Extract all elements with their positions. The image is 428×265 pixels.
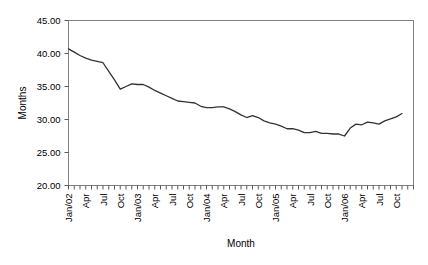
x-tick-label: Oct (391, 193, 402, 208)
x-tick-label: Apr (218, 194, 229, 209)
x-tick-label: Jan/06 (339, 194, 350, 223)
line-chart: 20.0025.0030.0035.0040.0045.00 Jan/02Apr… (0, 0, 428, 265)
x-tick-label: Jul (167, 194, 178, 206)
x-tick-label: Jul (374, 194, 385, 206)
y-tick-label: 45.00 (37, 15, 61, 26)
x-tick-label: Oct (184, 193, 195, 208)
x-tick-label: Apr (149, 194, 160, 209)
y-tick-label: 25.00 (37, 147, 61, 158)
x-tick-label: Oct (322, 193, 333, 208)
x-tick-label: Jan/03 (132, 194, 143, 223)
x-tick-label: Apr (287, 194, 298, 209)
chart-canvas: 20.0025.0030.0035.0040.0045.00 Jan/02Apr… (0, 0, 428, 265)
x-tick-label: Oct (115, 193, 126, 208)
x-tick-label: Jul (98, 194, 109, 206)
x-axis-title: Month (227, 238, 255, 249)
y-tick-label: 20.00 (37, 180, 61, 191)
y-tick-label: 35.00 (37, 81, 61, 92)
y-axis-title: Months (17, 87, 28, 120)
x-tick-label: Jul (236, 194, 247, 206)
x-axis-ticks (69, 186, 414, 190)
x-tick-label: Oct (253, 193, 264, 208)
x-tick-label: Jan/04 (201, 194, 212, 223)
chart-background (0, 0, 428, 265)
y-tick-label: 40.00 (37, 48, 61, 59)
y-tick-label: 30.00 (37, 114, 61, 125)
x-tick-label: Apr (80, 194, 91, 209)
x-tick-label: Jul (305, 194, 316, 206)
x-tick-label: Jan/02 (63, 194, 74, 223)
x-tick-label: Jan/05 (270, 194, 281, 223)
x-tick-label: Apr (356, 194, 367, 209)
